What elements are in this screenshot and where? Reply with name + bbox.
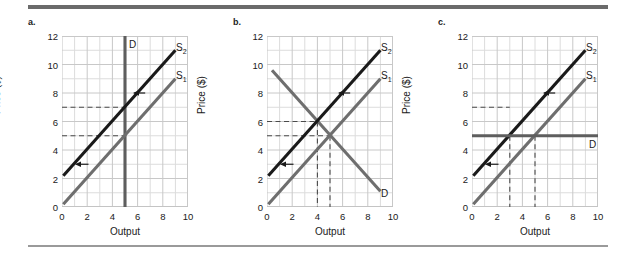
panel-b-x-ticks: 0 2 4 6 8 10 <box>267 211 393 225</box>
panel-c-letter: c. <box>438 17 446 27</box>
y-tick: 6 <box>446 116 468 127</box>
supply2-curve-a <box>63 50 175 175</box>
y-tick: 6 <box>36 116 58 127</box>
x-tick: 6 <box>128 211 148 222</box>
supply1-label-a: S1 <box>176 70 187 83</box>
panel-b-x-axis-label: Output <box>267 226 393 237</box>
x-tick: 4 <box>102 211 122 222</box>
supply1-label-b: S1 <box>381 70 392 83</box>
x-tick: 2 <box>77 211 97 222</box>
panel-c-y-ticks: 0 2 4 6 8 10 12 <box>444 36 468 207</box>
panel-c-svg <box>472 36 598 207</box>
panel-a-svg <box>62 36 188 207</box>
y-tick: 8 <box>36 88 58 99</box>
x-tick: 4 <box>512 211 532 222</box>
x-tick: 8 <box>153 211 173 222</box>
x-tick: 2 <box>487 211 507 222</box>
supply-demand-figure: a. Price ($) Output 0 2 4 6 8 10 12 0 2 … <box>0 0 620 253</box>
y-tick: 8 <box>446 88 468 99</box>
x-tick: 10 <box>383 211 403 222</box>
y-tick: 4 <box>36 145 58 156</box>
x-tick: 8 <box>358 211 378 222</box>
panel-b-svg <box>267 36 393 207</box>
x-tick: 0 <box>257 211 277 222</box>
x-tick: 8 <box>563 211 583 222</box>
supply1-curve-a <box>63 79 175 204</box>
y-tick: 4 <box>241 145 263 156</box>
x-tick: 0 <box>52 211 72 222</box>
panel-c-y-axis-label: Price ($) <box>401 55 412 135</box>
supply2-curve-b <box>268 50 380 175</box>
panel-b-y-ticks: 0 2 4 6 8 10 12 <box>239 36 263 207</box>
supply1-curve-b <box>268 79 380 204</box>
x-tick: 10 <box>178 211 198 222</box>
panel-a-y-ticks: 0 2 4 6 8 10 12 <box>34 36 58 207</box>
panel-b: b. Price ($) Output 0 2 4 6 8 10 12 0 2 … <box>205 0 410 253</box>
panel-a-x-axis-label: Output <box>62 226 188 237</box>
guide-lines <box>472 107 535 207</box>
x-tick: 0 <box>462 211 482 222</box>
y-tick: 8 <box>241 88 263 99</box>
supply2-curve-c <box>473 50 585 175</box>
supply2-label-c: S2 <box>586 42 597 55</box>
x-tick: 6 <box>333 211 353 222</box>
y-tick: 2 <box>241 173 263 184</box>
y-tick: 2 <box>446 173 468 184</box>
x-tick: 4 <box>307 211 327 222</box>
y-tick: 12 <box>36 31 58 42</box>
panel-b-y-axis-label: Price ($) <box>196 55 207 135</box>
y-tick: 4 <box>446 145 468 156</box>
y-tick: 10 <box>36 59 58 70</box>
demand-curve-b <box>272 70 380 191</box>
panel-a: a. Price ($) Output 0 2 4 6 8 10 12 0 2 … <box>0 0 205 253</box>
panel-b-plot-area: D S2 S1 <box>267 36 393 207</box>
panel-a-y-axis-label: Price ($) <box>0 55 2 135</box>
supply2-label-a: S2 <box>176 42 187 55</box>
x-tick: 10 <box>588 211 608 222</box>
panel-b-letter: b. <box>233 17 241 27</box>
supply2-label-b: S2 <box>381 42 392 55</box>
panel-c-x-axis-label: Output <box>472 226 598 237</box>
panel-a-letter: a. <box>28 17 36 27</box>
y-tick: 12 <box>446 31 468 42</box>
demand-label-a: D <box>129 39 136 50</box>
y-tick: 12 <box>241 31 263 42</box>
panel-c-plot-area: D S2 S1 <box>472 36 598 207</box>
panel-c-x-ticks: 0 2 4 6 8 10 <box>472 211 598 225</box>
y-tick: 2 <box>36 173 58 184</box>
demand-label-b: D <box>381 188 388 199</box>
supply1-curve-c <box>473 79 585 204</box>
x-tick: 6 <box>538 211 558 222</box>
panel-c: c. Price ($) Output 0 2 4 6 8 10 12 0 2 … <box>410 0 615 253</box>
demand-label-c: D <box>589 139 596 150</box>
y-tick: 10 <box>241 59 263 70</box>
panel-a-plot-area: D S2 S1 <box>62 36 188 207</box>
y-tick: 6 <box>241 116 263 127</box>
panel-a-x-ticks: 0 2 4 6 8 10 <box>62 211 188 225</box>
supply1-label-c: S1 <box>586 70 597 83</box>
x-tick: 2 <box>282 211 302 222</box>
y-tick: 10 <box>446 59 468 70</box>
